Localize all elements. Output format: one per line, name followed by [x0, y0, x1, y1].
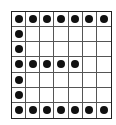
grid-cell-r1-c1[interactable] — [26, 27, 40, 42]
grid-cell-r4-c3[interactable] — [54, 73, 68, 88]
dot-icon — [57, 15, 65, 23]
grid-cell-r0-c0[interactable] — [12, 12, 26, 27]
grid-cell-r4-c4[interactable] — [69, 73, 83, 88]
grid-cell-r4-c2[interactable] — [40, 73, 54, 88]
dot-icon — [100, 15, 108, 23]
grid-cell-r1-c0[interactable] — [12, 27, 26, 42]
grid-cell-r5-c5[interactable] — [83, 88, 97, 103]
dot-icon — [71, 106, 79, 114]
grid-cell-r2-c1[interactable] — [26, 42, 40, 57]
dot-icon — [29, 106, 37, 114]
grid-cell-r4-c6[interactable] — [97, 73, 111, 88]
grid-cell-r6-c5[interactable] — [83, 103, 97, 118]
dot-icon — [29, 60, 37, 68]
grid-cell-r5-c6[interactable] — [97, 88, 111, 103]
dot-icon — [15, 106, 23, 114]
grid-cell-r5-c2[interactable] — [40, 88, 54, 103]
grid-cell-r3-c6[interactable] — [97, 57, 111, 72]
grid-cell-r6-c0[interactable] — [12, 103, 26, 118]
grid-cell-r3-c3[interactable] — [54, 57, 68, 72]
grid-cell-r2-c0[interactable] — [12, 42, 26, 57]
grid-cell-r1-c4[interactable] — [69, 27, 83, 42]
grid-cell-r4-c5[interactable] — [83, 73, 97, 88]
grid-cell-r3-c2[interactable] — [40, 57, 54, 72]
grid-cell-r2-c2[interactable] — [40, 42, 54, 57]
grid-cell-r4-c0[interactable] — [12, 73, 26, 88]
grid-cell-r0-c4[interactable] — [69, 12, 83, 27]
grid-cell-r5-c3[interactable] — [54, 88, 68, 103]
grid-cell-r3-c5[interactable] — [83, 57, 97, 72]
dot-grid-board — [11, 11, 112, 119]
grid-cell-r1-c5[interactable] — [83, 27, 97, 42]
dot-icon — [100, 106, 108, 114]
grid-cell-r1-c6[interactable] — [97, 27, 111, 42]
dot-icon — [15, 30, 23, 38]
grid-cell-r0-c6[interactable] — [97, 12, 111, 27]
grid-cell-r3-c0[interactable] — [12, 57, 26, 72]
dot-icon — [57, 106, 65, 114]
dot-icon — [43, 106, 51, 114]
grid-cell-r5-c1[interactable] — [26, 88, 40, 103]
grid-cell-r1-c3[interactable] — [54, 27, 68, 42]
grid-cell-r4-c1[interactable] — [26, 73, 40, 88]
dot-icon — [15, 45, 23, 53]
dot-icon — [15, 76, 23, 84]
grid-cell-r1-c2[interactable] — [40, 27, 54, 42]
grid-cell-r3-c4[interactable] — [69, 57, 83, 72]
grid-cell-r6-c3[interactable] — [54, 103, 68, 118]
dot-icon — [43, 60, 51, 68]
grid-cell-r0-c5[interactable] — [83, 12, 97, 27]
grid-cell-r5-c0[interactable] — [12, 88, 26, 103]
grid-cell-r6-c6[interactable] — [97, 103, 111, 118]
grid-cell-r2-c5[interactable] — [83, 42, 97, 57]
dot-icon — [15, 91, 23, 99]
dot-icon — [15, 60, 23, 68]
grid-cell-r0-c2[interactable] — [40, 12, 54, 27]
dot-icon — [71, 60, 79, 68]
dot-icon — [71, 15, 79, 23]
dot-icon — [43, 15, 51, 23]
dot-icon — [57, 60, 65, 68]
dot-icon — [29, 15, 37, 23]
grid-cell-r3-c1[interactable] — [26, 57, 40, 72]
grid-cell-r0-c3[interactable] — [54, 12, 68, 27]
dot-icon — [85, 106, 93, 114]
grid-cell-r6-c2[interactable] — [40, 103, 54, 118]
dot-icon — [85, 15, 93, 23]
grid-cell-r6-c4[interactable] — [69, 103, 83, 118]
grid-cell-r2-c3[interactable] — [54, 42, 68, 57]
grid-cell-r2-c6[interactable] — [97, 42, 111, 57]
grid-cell-r5-c4[interactable] — [69, 88, 83, 103]
grid-cell-r6-c1[interactable] — [26, 103, 40, 118]
grid-cell-r2-c4[interactable] — [69, 42, 83, 57]
dot-icon — [15, 15, 23, 23]
grid-cell-r0-c1[interactable] — [26, 12, 40, 27]
